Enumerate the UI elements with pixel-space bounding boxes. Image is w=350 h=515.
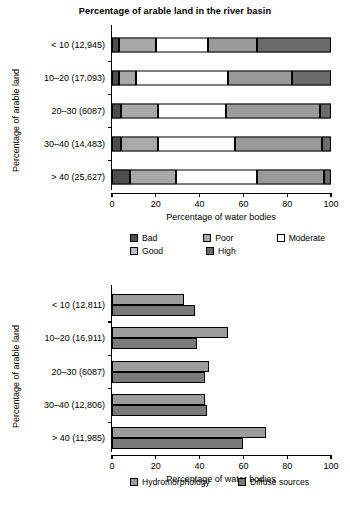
y-axis-title-chart2: Percentage of arable land [11,325,21,428]
x-tick-label-chart1: 0 [109,199,114,209]
category-label-chart1: 10–20 (17,093) [44,73,105,83]
legend-label: Hydromorphology [142,477,210,487]
bar-segment-good [257,169,325,184]
legend-item[interactable]: Bad [130,233,203,243]
x-tick-label-chart2: 40 [195,461,205,471]
x-tick-label-chart2: 60 [238,461,248,471]
stacked-bar [112,169,331,184]
bar-segment-moderate [158,136,235,151]
legend-swatch-icon [203,234,211,242]
grouped-bar-hydromorphology [112,327,228,338]
category-label-chart2: 10–20 (16,911) [45,333,105,343]
y-tick-chart2 [108,388,112,389]
bar-segment-moderate [158,103,226,118]
bar-segment-good [226,103,320,118]
grouped-bar-diffuse-sources [112,372,205,383]
category-label-chart1: 30–40 (14,483) [44,139,105,149]
bar-segment-bad [112,103,121,118]
x-tick-chart2 [287,455,288,459]
x-tick-label-chart2: 100 [323,461,338,471]
y-tick-chart1 [108,127,112,128]
x-tick-label-chart1: 40 [195,199,205,209]
stacked-bar [112,70,331,85]
grouped-bar-chart-panel: Percentage of arable land < 10 (12,811)1… [0,268,350,515]
bar-segment-good [208,37,256,52]
bar-segment-poor [121,136,158,151]
y-tick-chart2 [108,321,112,322]
stacked-bar [112,37,331,52]
y-tick-chart1 [108,61,112,62]
x-axis-line-chart2 [111,455,332,456]
grouped-bar-diffuse-sources [112,305,195,316]
x-tick-chart2 [155,455,156,459]
y-axis-title-chart1: Percentage of arable land [11,69,21,172]
x-axis-line-chart1 [111,193,332,194]
grouped-bar-hydromorphology [112,361,209,372]
legend-item[interactable]: Diffuse sources [238,477,346,487]
grouped-bar-diffuse-sources [112,438,243,449]
category-label-chart1: > 40 (25,627) [51,172,105,182]
category-label-chart1: < 10 (12,945) [51,40,105,50]
bar-segment-high [292,70,331,85]
legend-label: Moderate [289,233,325,243]
x-tick-label-chart1: 100 [323,199,338,209]
legend-item[interactable]: Hydromorphology [130,477,238,487]
bar-segment-good [235,136,323,151]
legend-swatch-icon [206,247,214,255]
plot-area-chart1: < 10 (12,945)10–20 (17,093)20–30 (6087)3… [112,28,331,193]
chart-title: Percentage of arable land in the river b… [0,6,350,16]
legend-item[interactable]: High [206,246,282,256]
x-tick-chart2 [199,455,200,459]
legend-item[interactable]: Poor [203,233,276,243]
x-tick-chart1 [111,193,112,197]
x-tick-label-chart1: 80 [282,199,292,209]
grouped-bar-diffuse-sources [112,338,197,349]
category-label-chart2: < 10 (12,811) [52,300,105,310]
x-tick-label-chart1: 60 [238,199,248,209]
legend-swatch-icon [238,478,246,486]
stacked-bar [112,136,331,151]
x-tick-chart1 [155,193,156,197]
y-tick-chart2 [108,355,112,356]
category-label-chart2: 20–30 (6087) [51,367,105,377]
legend-item[interactable]: Good [130,246,206,256]
x-tick-label-chart2: 80 [282,461,292,471]
bar-segment-poor [121,103,158,118]
x-tick-label-chart1: 20 [151,199,161,209]
legend-label: Good [142,246,163,256]
x-axis-title-chart1: Percentage of water bodies [166,212,276,222]
bar-segment-high [324,169,331,184]
y-tick-chart1 [108,160,112,161]
bar-segment-high [320,103,331,118]
bar-segment-bad [112,136,121,151]
bar-segment-bad [112,169,130,184]
legend-swatch-icon [130,234,138,242]
x-tick-chart1 [199,193,200,197]
legend-label: High [218,246,236,256]
x-tick-chart1 [243,193,244,197]
x-tick-chart2 [330,455,331,459]
y-tick-chart1 [108,94,112,95]
legend-chart1: BadPoorModerate GoodHigh [0,233,350,259]
bar-segment-high [257,37,331,52]
grouped-bar-diffuse-sources [112,405,207,416]
bar-segment-high [322,136,331,151]
bar-segment-moderate [156,37,209,52]
bar-segment-poor [130,169,176,184]
x-tick-chart1 [287,193,288,197]
x-tick-label-chart2: 20 [151,461,161,471]
stacked-bar-chart-panel: Percentage of arable land in the river b… [0,0,350,268]
legend-item[interactable]: Moderate [277,233,350,243]
x-tick-chart1 [330,193,331,197]
grouped-bar-hydromorphology [112,394,205,405]
legend-label: Bad [142,233,157,243]
category-label-chart2: 30–40 (12,806) [44,400,105,410]
legend-swatch-icon [130,478,138,486]
y-tick-chart2 [108,422,112,423]
bar-segment-poor [119,37,156,52]
bar-segment-poor [119,70,137,85]
x-tick-label-chart2: 0 [109,461,114,471]
bar-segment-good [228,70,292,85]
legend-swatch-icon [277,234,285,242]
bar-segment-moderate [176,169,257,184]
